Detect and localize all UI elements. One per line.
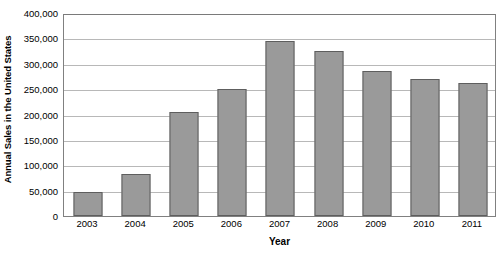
bar[interactable] [266,41,295,216]
bar-slot [160,15,208,216]
y-axis-tick-label: 0 [14,212,58,222]
bar-slot [449,15,497,216]
bar-chart-screenshot: Annual Sales in the United States 050,00… [0,0,500,260]
y-axis-tick-label: 50,000 [14,187,58,197]
x-axis-tick-labels: 200320042005200620072008200920102011 [63,219,496,235]
y-axis-tick-label: 300,000 [14,60,58,70]
bar[interactable] [122,174,151,216]
x-axis-tick-label: 2005 [173,219,194,229]
bar[interactable] [458,83,487,216]
bar-slot [353,15,401,216]
bar[interactable] [74,192,103,216]
bar[interactable] [410,79,439,216]
y-axis-tick-label: 150,000 [14,136,58,146]
bar-slot [256,15,304,216]
x-axis-tick-label: 2003 [76,219,97,229]
bars-group [64,15,495,216]
y-axis-tick-label: 350,000 [14,35,58,45]
bar[interactable] [218,89,247,216]
x-axis-tick-label: 2011 [462,219,482,229]
y-axis-tick-label: 400,000 [14,9,58,19]
y-axis-tick-labels: 050,000100,000150,000200,000250,000300,0… [16,0,61,226]
bar-slot [112,15,160,216]
x-axis-tick-label: 2007 [269,219,290,229]
plot-area [63,14,496,217]
bar-slot [64,15,112,216]
x-axis-tick-label: 2004 [125,219,146,229]
y-axis-tick-label: 100,000 [14,162,58,172]
bar[interactable] [362,71,391,216]
x-axis-tick-label: 2008 [317,219,338,229]
bar-slot [401,15,449,216]
y-axis-tick-label: 250,000 [14,85,58,95]
bar-slot [208,15,256,216]
x-axis-tick-label: 2010 [413,219,434,229]
bar[interactable] [314,51,343,216]
bar-slot [305,15,353,216]
x-axis-tick-label: 2006 [221,219,242,229]
y-axis-title-label: Annual Sales in the United States [3,35,14,183]
bar[interactable] [170,112,199,216]
y-axis-title: Annual Sales in the United States [0,0,16,218]
y-axis-tick-label: 200,000 [14,111,58,121]
x-axis-title: Year [63,236,496,247]
x-axis-tick-label: 2009 [365,219,386,229]
